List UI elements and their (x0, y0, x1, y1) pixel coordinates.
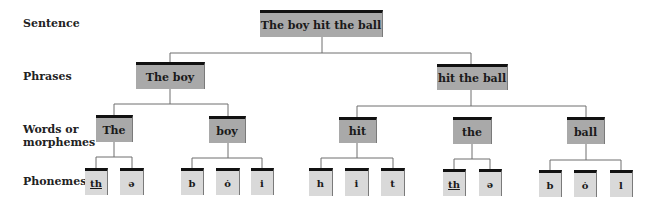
level-label-sentence: Sentence (23, 17, 80, 30)
phoneme-text: ə (487, 179, 493, 190)
word-node: ball (567, 117, 605, 144)
phoneme-text: i (260, 178, 264, 189)
word-text: the (462, 126, 482, 139)
sentence-text: The boy hit the ball (261, 19, 381, 32)
word-text: The (102, 124, 125, 137)
level-label-phonemes: Phonemes (23, 175, 86, 188)
phoneme-node: ə (479, 169, 502, 196)
word-node: boy (209, 116, 246, 143)
phrase-text: The boy (146, 71, 194, 84)
phoneme-node: l (610, 170, 633, 197)
sentence-node: The boy hit the ball (260, 10, 383, 37)
phoneme-node: th (443, 169, 466, 196)
phoneme-node: b (181, 168, 204, 195)
phoneme-text: t (390, 178, 395, 189)
word-node: the (453, 117, 492, 144)
phoneme-text: ȯ (224, 178, 231, 189)
phoneme-text: h (317, 178, 324, 189)
phoneme-text: l (619, 180, 623, 191)
word-text: hit (349, 125, 366, 138)
word-text: ball (574, 126, 597, 139)
phrase-node: hit the ball (437, 64, 508, 90)
phoneme-text: b (547, 180, 554, 191)
phoneme-node: i (251, 168, 274, 195)
phoneme-text: b (189, 178, 196, 189)
phrase-node: The boy (136, 62, 205, 89)
phoneme-node: ȯ (216, 168, 240, 195)
phrase-text: hit the ball (438, 72, 506, 85)
phoneme-text: ə (128, 178, 134, 189)
word-node: hit (339, 117, 377, 143)
level-label-words-line1: Words or (23, 123, 78, 136)
phoneme-text: th (90, 178, 102, 189)
phoneme-node: ə (120, 168, 144, 195)
word-text: boy (216, 125, 237, 138)
phoneme-node: th (85, 168, 108, 195)
phoneme-text: ȯ (582, 180, 589, 191)
phoneme-text: i (355, 178, 359, 189)
level-label-words-line2: morphemes (23, 136, 95, 149)
word-node: The (96, 115, 133, 142)
phoneme-node: ȯ (574, 170, 597, 197)
level-label-phrases: Phrases (23, 70, 72, 83)
phoneme-node: t (381, 168, 405, 196)
phoneme-text: th (448, 179, 460, 190)
phoneme-node: b (539, 170, 562, 197)
phoneme-node: h (309, 168, 333, 196)
phoneme-node: i (345, 168, 369, 196)
